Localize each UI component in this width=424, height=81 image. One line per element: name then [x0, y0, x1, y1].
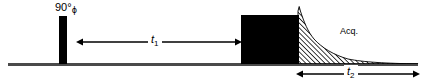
- pulse-sequence-figure: 90°ϕ Acq. t1 t2: [0, 0, 424, 81]
- t2-interval-label: t2: [344, 65, 358, 81]
- excitation-pulse-label: 90°ϕ: [55, 1, 77, 17]
- t1-subscript: 1: [154, 39, 158, 48]
- excitation-pulse-bar: [59, 16, 67, 64]
- phase-subscript: ϕ: [72, 6, 77, 15]
- t2-interval-arrow: [296, 67, 420, 81]
- block-pulse-rect: [241, 15, 299, 64]
- t1-interval-label: t1: [148, 33, 162, 50]
- flip-angle-value: 90: [55, 1, 67, 13]
- t2-subscript: 2: [350, 71, 354, 80]
- acquisition-label: Acq.: [340, 26, 358, 36]
